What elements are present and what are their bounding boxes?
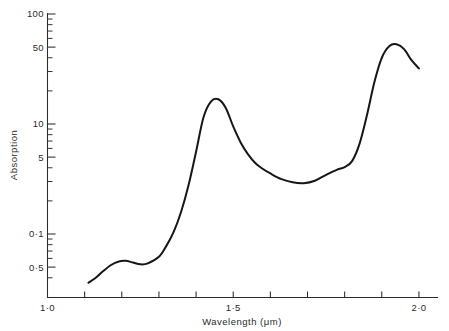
x-tick-label: 2·0 <box>411 302 426 313</box>
y-tick-label: 0·1 <box>29 228 44 239</box>
y-tick-label: 50 <box>33 42 44 53</box>
y-tick-label: 10 <box>33 118 44 129</box>
y-axis-ticks <box>48 14 56 278</box>
y-axis-title: Absorption <box>8 130 19 180</box>
x-tick-label: 1·5 <box>226 302 241 313</box>
x-axis-ticks <box>48 292 419 298</box>
figure-container: 100501050·10·5 1·01·52·0 Wavelength (μm)… <box>0 0 449 331</box>
y-tick-label: 5 <box>38 152 44 163</box>
y-tick-label: 100 <box>27 8 44 19</box>
absorption-line-chart: 100501050·10·5 1·01·52·0 Wavelength (μm)… <box>0 0 449 331</box>
x-tick-label: 1·0 <box>40 302 55 313</box>
y-tick-label: 0·5 <box>29 262 44 273</box>
absorption-curve <box>88 44 419 283</box>
x-axis-tick-labels: 1·01·52·0 <box>40 302 426 313</box>
y-axis-tick-labels: 100501050·10·5 <box>27 8 44 272</box>
x-axis-title: Wavelength (μm) <box>202 316 282 327</box>
